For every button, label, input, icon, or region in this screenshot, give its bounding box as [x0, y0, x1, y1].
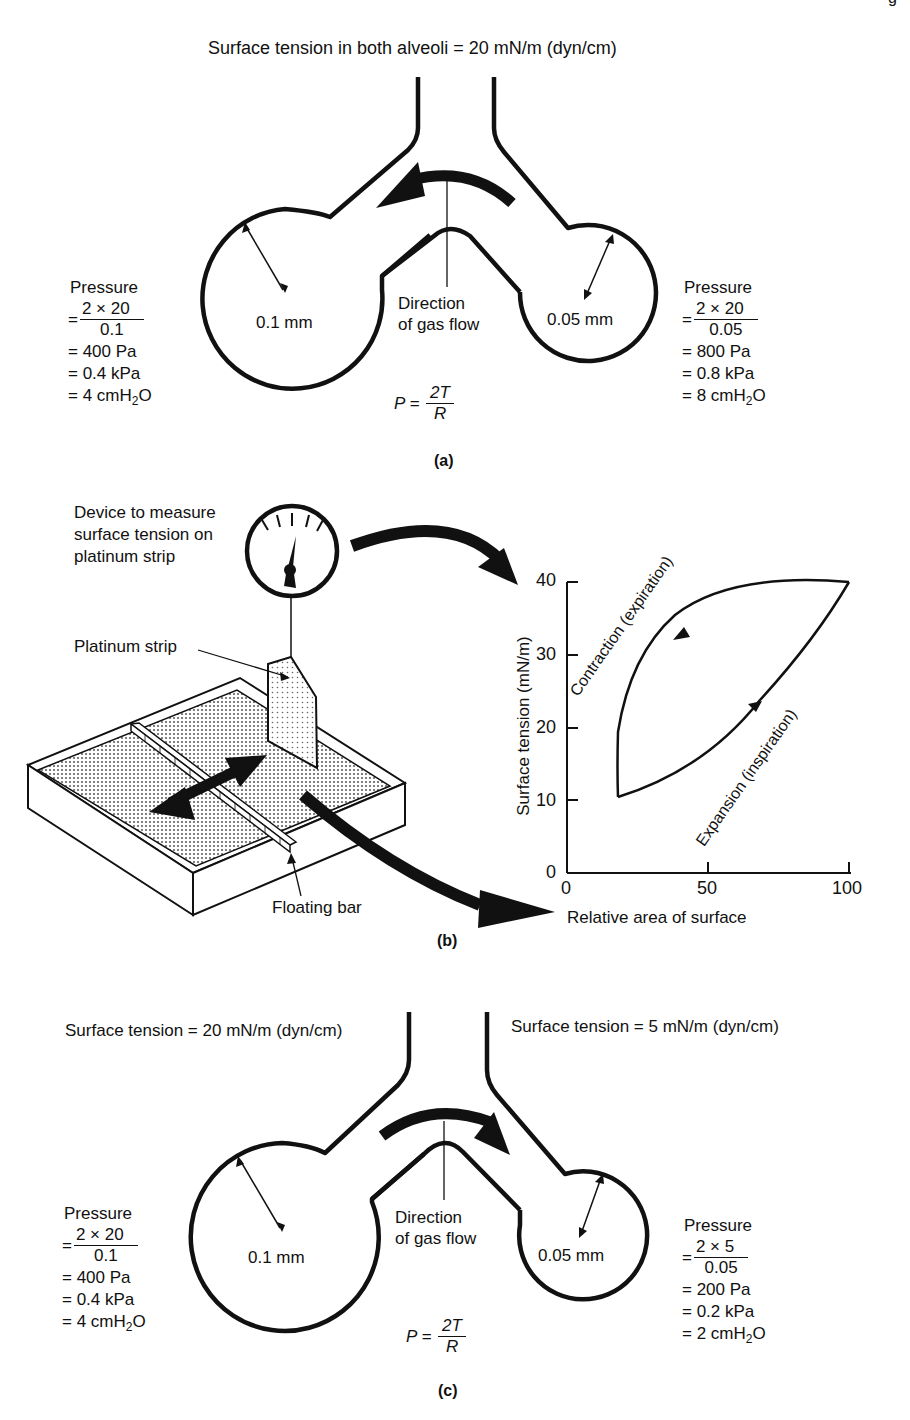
- pressure-kpa: = 0.4 kPa: [68, 363, 152, 385]
- pressure-fraction: 2 × 20 0.05: [694, 299, 758, 340]
- left-pressure-calc: Pressure = 2 × 20 0.1 = 400 Pa = 0.4 kPa…: [62, 1203, 146, 1333]
- left-alveolus-outline: [191, 1012, 424, 1331]
- left-alveolus-outline: [202, 77, 430, 389]
- floating-bar-label: Floating bar: [272, 898, 362, 918]
- y-tick-30: 30: [536, 644, 556, 664]
- flow-label-line2: of gas flow: [398, 314, 479, 335]
- pressure-cmh2o: = 2 cmH2O: [682, 1323, 766, 1345]
- panel-b-caption: (b): [437, 932, 457, 950]
- trough-icon: [28, 678, 405, 915]
- carina-outline: [372, 1143, 520, 1210]
- right-pressure-calc: Pressure = 2 × 5 0.05 = 200 Pa = 0.2 kPa…: [682, 1215, 766, 1345]
- x-axis-label: Relative area of surface: [567, 908, 747, 928]
- pressure-kpa: = 0.8 kPa: [682, 363, 766, 385]
- y-tick-20: 20: [536, 717, 556, 737]
- flow-arrow-left: [412, 176, 512, 203]
- floating-bar-icon: [131, 723, 296, 852]
- pressure-cmh2o: = 4 cmH2O: [62, 1311, 146, 1333]
- panel-c-right-title: Surface tension = 5 mN/m (dyn/cm): [511, 1017, 779, 1037]
- flow-label-line1: Direction: [398, 293, 479, 314]
- x-tick-0: 0: [561, 878, 571, 898]
- flow-arrow-right: [382, 1114, 490, 1136]
- pressure-fraction: 2 × 5 0.05: [694, 1237, 748, 1278]
- pressure-fraction: 2 × 20 0.1: [80, 299, 144, 340]
- contraction-annotation: Contraction (expiration): [566, 552, 678, 700]
- pressure-fraction: 2 × 20 0.1: [74, 1225, 138, 1266]
- contraction-curve: [618, 580, 850, 797]
- expansion-annotation: Expansion (inspiration): [692, 705, 802, 850]
- platinum-strip-label: Platinum strip: [74, 637, 177, 657]
- y-tick-40: 40: [536, 570, 556, 590]
- pressure-pa: = 800 Pa: [682, 341, 766, 363]
- panel-c-left-title: Surface tension = 20 mN/m (dyn/cm): [65, 1021, 342, 1041]
- x-tick-100: 100: [832, 878, 862, 898]
- laplace-formula: P = 2TR: [406, 1316, 466, 1357]
- device-label: Device to measure surface tension on pla…: [74, 502, 216, 568]
- right-pressure-calc: Pressure = 2 × 20 0.05 = 800 Pa = 0.8 kP…: [682, 277, 766, 407]
- pressure-cmh2o: = 4 cmH2O: [68, 385, 152, 407]
- right-radius-label: 0.05 mm: [547, 310, 613, 330]
- pressure-cmh2o: = 8 cmH2O: [682, 385, 766, 407]
- flow-label: Direction of gas flow: [395, 1207, 476, 1249]
- left-pressure-calc: Pressure = 2 × 20 0.1 = 400 Pa = 0.4 kPa…: [68, 277, 152, 407]
- panel-a-title: Surface tension in both alveoli = 20 mN/…: [208, 38, 617, 58]
- right-radius-label: 0.05 mm: [538, 1246, 604, 1266]
- flow-label: Direction of gas flow: [398, 293, 479, 335]
- x-tick-50: 50: [697, 878, 717, 898]
- left-radius-label: 0.1 mm: [248, 1248, 305, 1268]
- y-axis-label: Surface tension (mN/m): [514, 636, 534, 816]
- pressure-pa: = 400 Pa: [68, 341, 152, 363]
- y-tick-10: 10: [536, 790, 556, 810]
- y-tick-0: 0: [546, 862, 556, 882]
- carina-outline: [382, 229, 520, 292]
- pressure-heading: Pressure: [682, 277, 766, 299]
- expansion-curve: [618, 582, 849, 797]
- left-radius-label: 0.1 mm: [256, 313, 313, 333]
- pressure-heading: Pressure: [68, 277, 152, 299]
- page-mark: g: [888, 0, 897, 8]
- panel-c-caption: (c): [438, 1382, 458, 1400]
- laplace-formula: P = 2TR: [394, 383, 454, 424]
- double-arrow-icon: [149, 755, 267, 820]
- gauge-icon: [247, 506, 337, 596]
- platinum-strip-icon: [268, 657, 317, 768]
- panel-a-caption: (a): [434, 452, 454, 470]
